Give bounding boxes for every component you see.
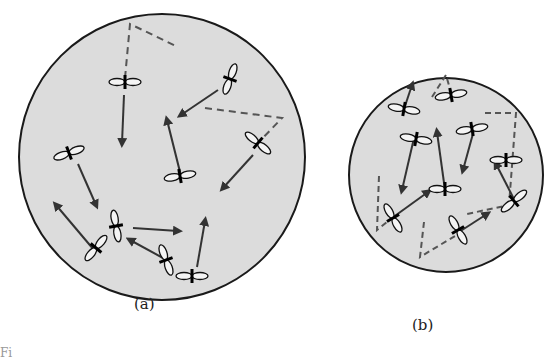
figure-caption-fragment: Fi	[0, 346, 12, 360]
panel-a-label: (a)	[134, 295, 155, 313]
panel-a-container	[19, 14, 305, 300]
panel-b-label: (b)	[412, 316, 433, 334]
panel-b-container	[349, 75, 543, 272]
